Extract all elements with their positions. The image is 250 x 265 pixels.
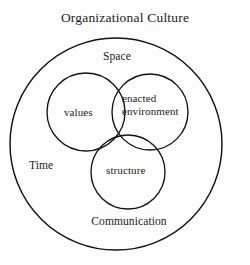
label-enacted-line2: environment	[122, 105, 179, 117]
label-communication: Communication	[0, 215, 250, 227]
label-time: Time	[29, 159, 53, 171]
label-structure: structure	[106, 165, 145, 177]
label-space: Space	[0, 50, 234, 62]
diagram-title: Organizational Culture	[0, 11, 250, 26]
label-values: values	[64, 107, 93, 119]
organizational-culture-diagram: Organizational Culture Space Time Commun…	[0, 0, 250, 265]
label-enacted-line1: enacted	[122, 92, 156, 104]
label-enacted-environment: enactedenvironment	[122, 92, 192, 118]
